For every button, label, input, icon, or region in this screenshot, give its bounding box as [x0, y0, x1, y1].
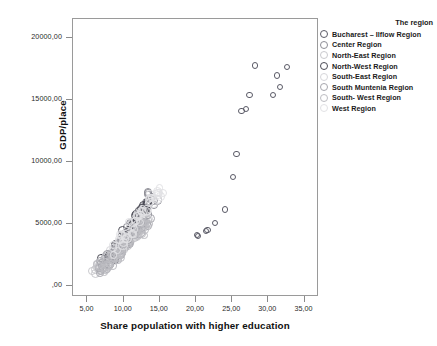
x-axis-tick-mark: [159, 296, 160, 302]
x-axis-tick-label: 25,00: [211, 304, 251, 313]
legend-marker-icon: [320, 41, 328, 49]
y-axis-title: GDP/place: [57, 100, 68, 149]
legend-item-label: South Muntenia Region: [332, 83, 413, 92]
legend-item-label: Center Region: [332, 40, 382, 49]
x-axis-tick-mark: [195, 296, 196, 302]
x-axis-tick-label: 15,00: [139, 304, 179, 313]
legend-item[interactable]: South- West Region: [320, 93, 437, 104]
y-axis-tick-label: 5000,00: [0, 219, 62, 227]
x-axis-tick-label: 30,00: [247, 304, 287, 313]
x-axis-tick-mark: [304, 296, 305, 302]
x-axis-tick-mark: [86, 296, 87, 302]
data-point: [274, 72, 280, 78]
legend-item[interactable]: South Muntenia Region: [320, 82, 437, 93]
plot-area: [72, 18, 318, 296]
data-point: [230, 174, 236, 180]
legend-title: The region: [320, 18, 437, 27]
legend-item-label: North-West Region: [332, 62, 398, 71]
legend-item-label: Bucharest – Ilflow Region: [332, 30, 421, 39]
scatter-chart-figure: GDP/place ,005000,0010000,0015000,002000…: [0, 0, 437, 346]
data-point: [233, 151, 239, 157]
legend-item-label: West Region: [332, 104, 376, 113]
data-point: [243, 106, 249, 112]
legend-marker-icon: [320, 30, 328, 38]
legend-item-label: South- West Region: [332, 93, 401, 102]
legend-marker-icon: [320, 73, 328, 81]
legend: The region Bucharest – Ilflow RegionCent…: [320, 18, 437, 114]
x-axis-title: Share population with higher education: [72, 320, 318, 331]
data-point: [277, 84, 283, 90]
legend-item[interactable]: Center Region: [320, 40, 437, 51]
y-axis-tick-label: 15000,00: [0, 95, 62, 103]
x-axis-tick-label: 35,00: [284, 304, 324, 313]
legend-marker-icon: [320, 94, 328, 102]
y-axis-tick-label: 10000,00: [0, 157, 62, 165]
legend-item[interactable]: North-East Region: [320, 50, 437, 61]
legend-items: Bucharest – Ilflow RegionCenter RegionNo…: [320, 29, 437, 114]
legend-item-label: North-East Region: [332, 51, 396, 60]
legend-item[interactable]: South-East Region: [320, 71, 437, 82]
x-axis-tick-label: 20,00: [175, 304, 215, 313]
data-point: [246, 92, 252, 98]
data-point: [204, 227, 210, 233]
data-points-layer: [73, 19, 317, 295]
legend-marker-icon: [320, 51, 328, 59]
legend-item[interactable]: North-West Region: [320, 61, 437, 72]
x-axis-tick-mark: [267, 296, 268, 302]
data-point: [252, 62, 258, 68]
data-point: [110, 251, 118, 259]
x-axis-tick-mark: [123, 296, 124, 302]
legend-item-label: South-East Region: [332, 72, 397, 81]
data-point: [270, 92, 276, 98]
x-axis-tick-label: 5,00: [66, 304, 106, 313]
y-axis-tick-label: 20000,00: [0, 33, 62, 41]
data-point: [284, 64, 290, 70]
legend-item[interactable]: Bucharest – Ilflow Region: [320, 29, 437, 40]
legend-marker-icon: [320, 104, 328, 112]
legend-marker-icon: [320, 62, 328, 70]
x-axis-tick-label: 10,00: [103, 304, 143, 313]
data-point: [212, 220, 218, 226]
legend-marker-icon: [320, 83, 328, 91]
data-point: [222, 206, 228, 212]
y-axis-tick-label: ,00: [0, 281, 62, 289]
legend-item[interactable]: West Region: [320, 103, 437, 114]
data-point: [195, 233, 201, 239]
x-axis-tick-mark: [231, 296, 232, 302]
